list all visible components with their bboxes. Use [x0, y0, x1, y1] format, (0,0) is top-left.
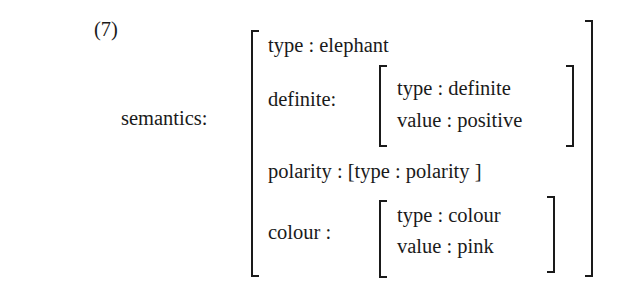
- example-number: (7): [94, 19, 118, 40]
- avm-subrow-value-positive: value : positive: [397, 110, 522, 131]
- avm-subrow-value-pink: value : pink: [397, 236, 494, 257]
- avm-attribute-colour: colour :: [268, 222, 331, 243]
- avm-row-type: type : elephant: [268, 35, 389, 56]
- avm-row-polarity: polarity : [type : polarity ]: [268, 161, 482, 182]
- avm-subrow-type-definite: type : definite: [397, 78, 511, 99]
- inner-bracket-left-colour: [379, 200, 387, 278]
- inner-bracket-right-colour: [547, 196, 555, 273]
- feature-label-semantics: semantics:: [121, 108, 208, 129]
- inner-bracket-left-definite: [379, 65, 387, 147]
- avm-subrow-type-colour: type : colour: [397, 205, 501, 226]
- inner-bracket-right-definite: [566, 65, 574, 147]
- outer-bracket-left: [251, 30, 259, 277]
- outer-bracket-right: [585, 20, 593, 277]
- avm-attribute-definite: definite:: [268, 89, 336, 110]
